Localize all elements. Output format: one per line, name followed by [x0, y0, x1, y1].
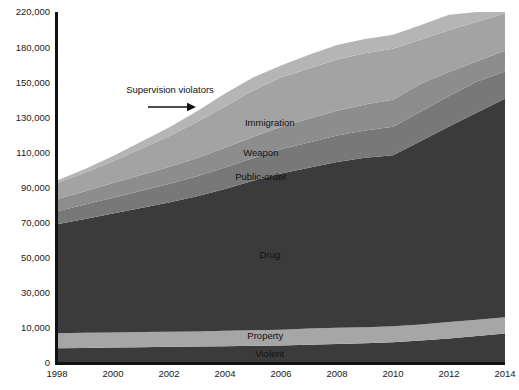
x-axis-tick-labels: 199820002002200420062008201020122014 [46, 368, 515, 379]
annotation-arrow-head [187, 103, 196, 111]
band-label-property: Property [247, 330, 283, 341]
x-axis-tick-label: 2014 [494, 368, 515, 379]
y-axis-tick-label: 70,000 [21, 217, 50, 228]
chart-annotations: Supervision violators [126, 84, 214, 111]
y-axis-tick-label: 180,000 [16, 42, 50, 53]
y-axis-tick-label: 30,000 [21, 287, 50, 298]
band-label-drug: Drug [260, 249, 281, 260]
y-axis-tick-label: 90,000 [21, 182, 50, 193]
chart-canvas: 010,00030,00050,00070,00090,000110,00013… [0, 0, 519, 390]
x-axis-tick-label: 1998 [46, 368, 67, 379]
y-axis-tick-label: 50,000 [21, 252, 50, 263]
y-axis-tick-label: 110,000 [16, 147, 50, 158]
y-axis-tick-label: 10,000 [21, 322, 50, 333]
stacked-area-chart: 010,00030,00050,00070,00090,000110,00013… [0, 0, 519, 390]
x-axis-tick-label: 2000 [102, 368, 123, 379]
band-label-weapon: Weapon [243, 147, 278, 158]
y-axis-tick-label: 130,000 [16, 112, 50, 123]
annotation-label-supervision-violators: Supervision violators [126, 84, 214, 95]
band-label-violent: Violent [255, 348, 284, 359]
y-axis-tick-label: 220,000 [16, 6, 50, 17]
x-axis-tick-label: 2002 [158, 368, 179, 379]
x-axis-tick-label: 2004 [214, 368, 235, 379]
y-axis-tick-label: 0 [45, 357, 50, 368]
x-axis-tick-label: 2008 [326, 368, 347, 379]
x-axis-tick-label: 2010 [382, 368, 403, 379]
area-bands-group [57, 12, 505, 363]
band-label-public-order: Public-order [235, 171, 286, 182]
x-axis-tick-label: 2012 [438, 368, 459, 379]
x-axis-tick-label: 2006 [270, 368, 291, 379]
y-axis-tick-label: 150,000 [16, 77, 50, 88]
band-label-immigration: Immigration [245, 117, 295, 128]
y-axis-tick-labels: 010,00030,00050,00070,00090,000110,00013… [16, 6, 50, 368]
